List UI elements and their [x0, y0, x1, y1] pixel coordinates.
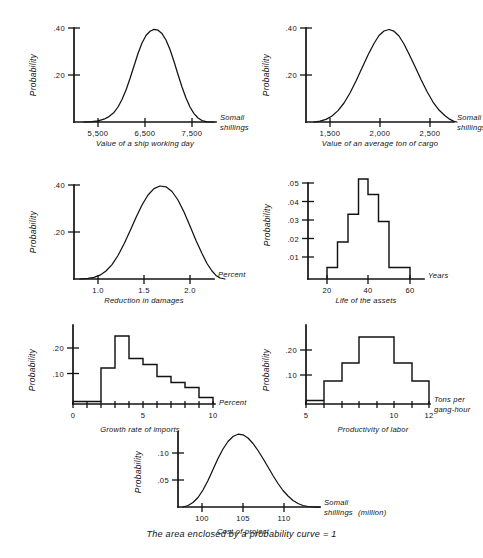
y-tick-label: .01 [287, 253, 299, 262]
x-tick-label: 5 [304, 411, 309, 420]
chart-panel-ship-working-day: .40 .20 Probability 5,500 6,500 7,500 So… [22, 18, 232, 146]
x-axis-group: 0 5 10 Percent Growth rate of imports [71, 398, 248, 434]
x-tick-label: 12 [424, 411, 433, 420]
x-unit-label-3: (million) [358, 508, 387, 517]
y-tick-label: .20 [53, 228, 65, 237]
x-unit-label-2: shillings [457, 123, 483, 132]
x-tick-label: 2,500 [420, 129, 441, 138]
probability-curve [84, 29, 214, 122]
x-axis-title: Life of the assets [335, 296, 396, 305]
x-axis-title: Value of an average ton of cargo [322, 139, 438, 148]
x-tick-label: 5,500 [88, 129, 109, 138]
x-tick-label: 60 [405, 286, 414, 295]
x-tick-label: 7,500 [182, 129, 203, 138]
probability-curves-figure: .40 .20 Probability 5,500 6,500 7,500 So… [0, 0, 483, 558]
x-unit-label: Tons per [434, 395, 465, 404]
y-tick-label: .03 [287, 216, 299, 225]
y-tick-label: .20 [285, 346, 297, 355]
y-axis-group: .05 .04 .03 .02 .01 Probability [262, 179, 314, 279]
x-tick-label: 40 [363, 286, 372, 295]
x-axis-group: 5 10 12 Tons per gang-hour Productivity … [304, 395, 471, 434]
probability-curve [314, 30, 457, 123]
x-tick-label: 1.5 [138, 286, 150, 295]
y-tick-label: .10 [157, 449, 169, 458]
x-axis-group: 5,500 6,500 7,500 Somali shillings Value… [74, 113, 249, 148]
x-unit-label: Years [428, 271, 448, 280]
x-unit-label: Somali [220, 113, 245, 122]
chart-panel-cost-of-project: .10 .05 Probability 100 105 110 Somali s… [130, 430, 380, 535]
x-unit-label: Somali [324, 498, 349, 507]
y-axis-group: .20 .10 Probability [261, 325, 312, 404]
chart-svg-average-ton-cargo: .40 .20 Probability 1,500 2,000 2,500 So… [258, 18, 473, 146]
y-tick-label: .20 [285, 71, 297, 80]
x-tick-label: 10 [208, 411, 217, 420]
x-tick-label: 6,500 [135, 129, 156, 138]
x-tick-label: 110 [277, 514, 290, 523]
x-tick-label: 5 [141, 411, 146, 420]
chart-panel-life-of-assets: .05 .04 .03 .02 .01 Probability 20 40 60… [258, 175, 473, 303]
x-tick-label: 100 [195, 514, 209, 523]
x-tick-label: 1,500 [320, 129, 341, 138]
y-axis-title: Probability [133, 450, 143, 493]
y-tick-label: .40 [53, 181, 65, 190]
y-axis-title: Probability [261, 53, 271, 96]
x-unit-label-2: gang-hour [434, 405, 471, 414]
x-tick-label: 1.0 [92, 286, 104, 295]
chart-svg-productivity-of-labor: .20 .10 Probability 5 10 12 Tons per gan… [258, 315, 476, 440]
y-tick-label: .10 [52, 370, 64, 379]
histogram-steps [306, 337, 429, 404]
chart-svg-ship-working-day: .40 .20 Probability 5,500 6,500 7,500 So… [22, 18, 232, 146]
y-tick-label: .20 [52, 344, 64, 353]
x-tick-label: 105 [236, 514, 250, 523]
chart-panel-reduction-in-damages: .40 .20 Probability 1.0 1.5 2.0 Percent … [22, 175, 232, 303]
y-tick-label: .40 [285, 24, 297, 33]
y-axis-group: .10 .05 Probability [133, 432, 184, 507]
x-unit-label: Percent [219, 398, 247, 407]
y-axis-group: .40 .20 Probability [28, 181, 80, 279]
chart-svg-cost-of-project: .10 .05 Probability 100 105 110 Somali s… [130, 430, 380, 535]
x-tick-label: 20 [322, 286, 331, 295]
y-tick-label: .05 [287, 179, 299, 188]
y-axis-group: .20 .10 Probability [27, 325, 79, 404]
chart-panel-average-ton-cargo: .40 .20 Probability 1,500 2,000 2,500 So… [258, 18, 473, 146]
x-unit-label-2: shillings [324, 508, 353, 517]
probability-curve [183, 434, 320, 507]
y-tick-label: .04 [287, 198, 299, 207]
x-tick-label: 2.0 [184, 286, 196, 295]
y-axis-title: Probability [261, 348, 271, 391]
y-tick-label: .05 [157, 476, 169, 485]
x-axis-title: Value of a ship working day [96, 139, 195, 148]
y-tick-label: .40 [53, 24, 65, 33]
x-tick-label: 0 [71, 411, 76, 420]
chart-panel-productivity-of-labor: .20 .10 Probability 5 10 12 Tons per gan… [258, 315, 476, 440]
y-axis-title: Probability [27, 348, 37, 391]
y-axis-group: .40 .20 Probability [28, 24, 80, 122]
x-unit-label: Percent [218, 270, 246, 279]
histogram-steps [327, 179, 410, 279]
y-axis-title: Probability [28, 210, 38, 253]
chart-panel-growth-rate-imports: .20 .10 Probability 0 5 10 Per [22, 315, 237, 440]
figure-caption: The area enclosed by a probability curve… [0, 529, 483, 539]
chart-svg-life-of-assets: .05 .04 .03 .02 .01 Probability 20 40 60… [258, 175, 473, 303]
probability-curve [80, 186, 225, 279]
x-axis-group: 1,500 2,000 2,500 Somali shillings Value… [306, 113, 483, 148]
y-tick-label: .02 [287, 235, 299, 244]
chart-svg-reduction-in-damages: .40 .20 Probability 1.0 1.5 2.0 Percent … [22, 175, 232, 303]
y-axis-title: Probability [262, 203, 272, 246]
x-tick-label: 2,000 [370, 129, 391, 138]
x-axis-title: Reduction in damages [104, 296, 184, 305]
y-tick-label: .20 [53, 71, 65, 80]
x-axis-group: 20 40 60 Years Life of the assets [308, 271, 448, 305]
x-unit-label-2: shillings [220, 123, 249, 132]
x-unit-label: Somali [457, 113, 482, 122]
histogram-steps [73, 336, 213, 404]
x-tick-label: 10 [389, 411, 398, 420]
y-axis-group: .40 .20 Probability [261, 24, 312, 122]
y-tick-label: .10 [285, 371, 297, 380]
chart-svg-growth-rate-imports: .20 .10 Probability 0 5 10 Per [22, 315, 237, 440]
y-axis-title: Probability [28, 53, 38, 96]
